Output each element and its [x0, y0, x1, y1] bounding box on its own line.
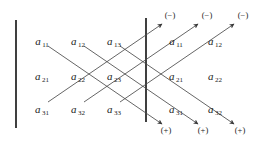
- entry-base: a: [35, 35, 41, 47]
- entry-subscript: 21: [42, 76, 49, 84]
- entry-subscript: 23: [114, 76, 121, 84]
- positive-sign-1: (+): [161, 126, 171, 135]
- entry-subscript: 12: [78, 41, 85, 49]
- positive-sign-2: (+): [198, 126, 208, 135]
- entry-subscript: 11: [42, 41, 49, 49]
- negative-sign-3: (−): [238, 11, 248, 20]
- matrix-entry-a32: a32: [71, 100, 85, 116]
- entry-subscript: 22: [78, 76, 85, 84]
- matrix-entry-a32-repeat: a32: [208, 100, 222, 116]
- matrix-entry-a22: a22: [71, 67, 85, 83]
- matrix-entry-a12-repeat: a12: [208, 32, 222, 48]
- matrix-entry-a33: a33: [107, 100, 121, 116]
- entry-base: a: [71, 35, 77, 47]
- negative-sign-1: (−): [165, 11, 175, 20]
- matrix-entry-a22-repeat: a22: [208, 67, 222, 83]
- entry-subscript: 32: [78, 109, 85, 117]
- entry-subscript: 12: [215, 41, 222, 49]
- matrix-entry-a31: a31: [35, 100, 49, 116]
- entry-base: a: [169, 103, 175, 115]
- entry-base: a: [169, 35, 175, 47]
- matrix-entry-a23: a23: [107, 67, 121, 83]
- sarrus-diagram: a11a12a13a21a22a23a31a32a33a11a12a21a22a…: [0, 0, 265, 142]
- matrix-entry-a13: a13: [107, 32, 121, 48]
- matrix-entry-a11-repeat: a11: [169, 32, 183, 48]
- entry-subscript: 22: [215, 76, 222, 84]
- entry-base: a: [71, 103, 77, 115]
- entry-subscript: 11: [176, 41, 183, 49]
- positive-sign-3: (+): [235, 126, 245, 135]
- entry-base: a: [35, 103, 41, 115]
- entry-base: a: [208, 35, 214, 47]
- entry-subscript: 33: [114, 109, 121, 117]
- entry-subscript: 31: [176, 109, 183, 117]
- entry-subscript: 13: [114, 41, 121, 49]
- entry-subscript: 21: [176, 76, 183, 84]
- entry-base: a: [208, 70, 214, 82]
- negative-sign-2: (−): [202, 11, 212, 20]
- matrix-entry-a12: a12: [71, 32, 85, 48]
- entry-subscript: 31: [42, 109, 49, 117]
- matrix-entry-a21: a21: [35, 67, 49, 83]
- entry-base: a: [107, 70, 113, 82]
- matrix-entry-a11: a11: [35, 32, 49, 48]
- entry-base: a: [107, 35, 113, 47]
- entry-base: a: [107, 103, 113, 115]
- entry-base: a: [71, 70, 77, 82]
- entry-base: a: [208, 103, 214, 115]
- entry-subscript: 32: [215, 109, 222, 117]
- matrix-entry-a31-repeat: a31: [169, 100, 183, 116]
- matrix-entry-a21-repeat: a21: [169, 67, 183, 83]
- entry-base: a: [35, 70, 41, 82]
- entry-base: a: [169, 70, 175, 82]
